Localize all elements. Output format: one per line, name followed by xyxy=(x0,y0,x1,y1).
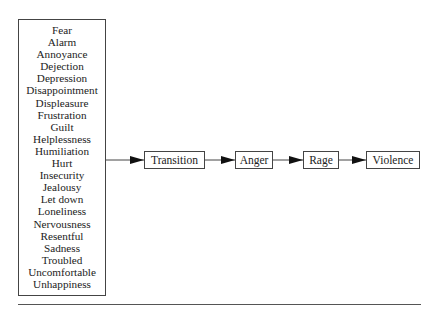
bottom-rule xyxy=(18,304,421,305)
node-anger: Anger xyxy=(235,151,273,169)
node-transition: Transition xyxy=(144,151,205,169)
node-rage: Rage xyxy=(303,151,339,169)
node-violence: Violence xyxy=(366,151,420,169)
